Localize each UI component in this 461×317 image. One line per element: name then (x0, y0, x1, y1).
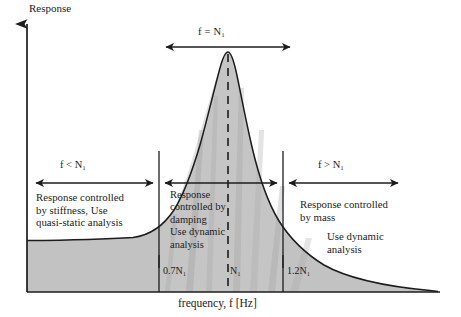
resonance-span-label: f = N₁ (198, 26, 225, 38)
x-axis-label: frequency, f [Hz] (178, 297, 257, 311)
left-region-description: Response controlled by stiffness, Use qu… (36, 191, 124, 229)
middle-region-description: Response controlled by damping Use dynam… (170, 189, 226, 251)
resonance-response-figure: Response frequency, f [Hz] f = N₁ f < N₁… (0, 0, 461, 317)
tick-label-high: 1.2N₁ (287, 265, 310, 277)
right-condition-label: f > N₁ (318, 159, 344, 171)
y-axis-label: Response (29, 2, 71, 15)
right-region-description-2: Use dynamic analysis (327, 230, 384, 255)
left-condition-label: f < N₁ (60, 159, 86, 171)
right-region-description: Response controlled by mass (300, 198, 388, 223)
curve-fill-area (27, 52, 438, 292)
tick-label-low: 0.7N₁ (163, 265, 186, 277)
tick-label-center: N₁ (230, 265, 241, 277)
